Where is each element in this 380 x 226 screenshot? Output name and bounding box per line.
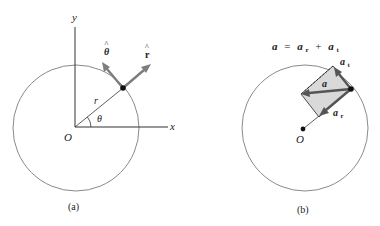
particle-point [120,85,126,91]
caption-a: (a) [68,201,79,213]
radius-line-b [303,116,319,129]
eq-term1-sub: r [305,46,308,54]
figure-a: y x θ r O θ ^ r ^ (a) [13,11,175,213]
vector-at-subscript: t [348,61,351,68]
vector-ar-label: a r [333,107,344,119]
vector-ar-symbol: a [333,107,338,118]
vector-ar-subscript: r [341,112,344,119]
vector-at-label: a t [340,56,351,68]
eq-plus: + [315,40,321,52]
unit-theta-hat: ^ [105,40,109,49]
vector-a-label: a [322,78,327,89]
unit-r-hat: ^ [145,43,149,52]
figure-b: a = a r + a t O a a t a [242,40,368,216]
origin-label-b: O [296,133,304,145]
origin-point [301,127,306,132]
particle-point-b [348,86,354,92]
angle-label: θ [97,113,102,124]
y-axis-label: y [71,11,77,23]
eq-term2: a [328,40,334,52]
angle-arc [87,117,91,127]
unit-r-vector [123,70,144,88]
vector-at-symbol: a [340,56,345,67]
figure-canvas: y x θ r O θ ^ r ^ (a) a = a r + a t [0,0,380,226]
unit-theta-vector [107,69,123,88]
origin-label: O [64,131,72,143]
eq-equals: = [284,40,290,52]
caption-b: (b) [297,204,309,216]
equation: a = a r + a t [272,40,340,54]
x-axis-label: x [169,120,175,132]
radius-label: r [94,95,98,106]
eq-term1: a [297,40,303,52]
eq-lhs: a [272,40,278,52]
eq-term2-sub: t [337,46,340,54]
